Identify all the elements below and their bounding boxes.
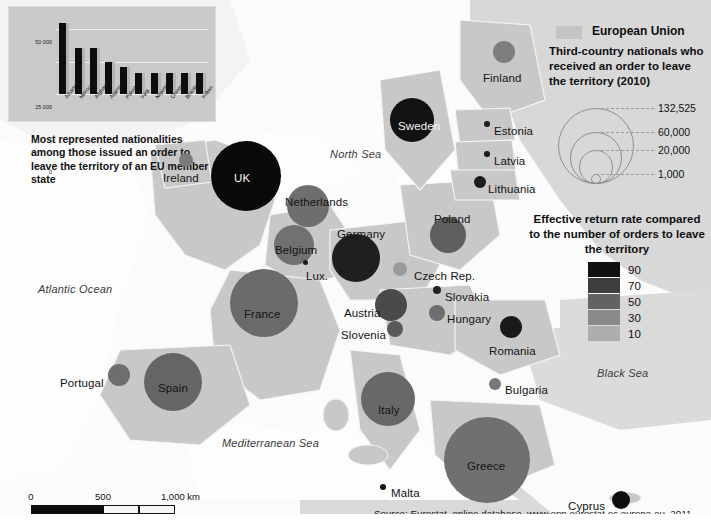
country-bubble xyxy=(380,484,386,490)
country-label: Estonia xyxy=(494,125,533,137)
country-label: Germany xyxy=(337,228,385,240)
country-bubble xyxy=(489,378,501,390)
bubble-legend-leader xyxy=(596,150,654,151)
rate-legend-title: Effective return rate compared to the nu… xyxy=(528,212,706,258)
country-label: France xyxy=(244,308,280,320)
country-label: Italy xyxy=(378,404,400,416)
rate-legend-swatch xyxy=(588,310,620,325)
scale-bar-tick: 1,000 km xyxy=(161,491,200,502)
bubble-legend-circle xyxy=(591,174,601,184)
sea-label: Mediterranean Sea xyxy=(222,437,319,449)
country-bubble xyxy=(433,286,441,294)
sea-label: North Sea xyxy=(330,148,381,160)
bubble-legend-title: Third-country nationals who received an … xyxy=(549,44,705,89)
country-label: Spain xyxy=(158,382,188,394)
bubble-legend-value: 132,525 xyxy=(658,102,696,114)
rate-legend-swatch xyxy=(588,278,620,293)
scale-bar xyxy=(31,505,175,514)
country-label: Latvia xyxy=(494,155,525,167)
country-label: Bulgaria xyxy=(505,384,548,396)
country-label: Lux. xyxy=(306,270,328,282)
footer-band xyxy=(0,514,711,532)
rate-legend-label: 50 xyxy=(628,296,641,308)
country-label: Slovenia xyxy=(341,329,386,341)
country-bubble xyxy=(361,372,415,426)
country-label: Czech Rep. xyxy=(414,270,475,282)
eu-legend-label: European Union xyxy=(592,24,685,38)
inset-bar-chart: 025 00050 000 Most represented nationali… xyxy=(8,6,216,122)
country-bubble xyxy=(332,234,380,282)
country-label: Hungary xyxy=(447,313,491,325)
rate-legend-label: 10 xyxy=(628,328,641,340)
rate-legend-swatch xyxy=(588,326,620,341)
country-bubble xyxy=(429,305,445,321)
bubble-size-legend: 132,52560,00020,0001,000 xyxy=(556,100,706,200)
bubble-legend-leader xyxy=(596,174,654,175)
country-bubble xyxy=(303,260,308,265)
sea-label: Black Sea xyxy=(597,367,648,379)
rate-legend-label: 30 xyxy=(628,312,641,324)
bubble-legend-value: 1,000 xyxy=(658,168,684,180)
sea-label: Atlantic Ocean xyxy=(38,283,112,295)
country-label: Greece xyxy=(467,460,505,472)
country-label: Netherlands xyxy=(285,196,348,208)
rate-legend-label: 90 xyxy=(628,264,641,276)
country-bubble xyxy=(474,176,486,188)
infographic-map: 025 00050 000 Most represented nationali… xyxy=(0,0,711,532)
country-label: Slovakia xyxy=(445,291,489,303)
country-bubble xyxy=(393,262,407,276)
country-label: Belgium xyxy=(275,244,317,256)
country-label: Portugal xyxy=(60,377,104,389)
chart-y-tick: 25 000 xyxy=(35,104,52,110)
country-bubble xyxy=(179,153,193,167)
scale-bar-tick: 0 xyxy=(28,491,33,502)
country-label: Romania xyxy=(489,345,536,357)
chart-bar xyxy=(59,23,66,95)
country-label: Sweden xyxy=(398,120,440,132)
country-label: Malta xyxy=(391,487,420,499)
country-label: Lithuania xyxy=(488,183,536,195)
country-label: Poland xyxy=(434,213,470,225)
rate-legend-label: 70 xyxy=(628,280,641,292)
scale-bar-tick: 500 xyxy=(95,491,111,502)
chart-gridline: 50 000 xyxy=(56,29,208,30)
rate-legend-swatch xyxy=(588,294,620,309)
country-label: Austria xyxy=(344,307,381,319)
bubble-legend-value: 20,000 xyxy=(658,144,690,156)
country-label: Ireland xyxy=(163,172,199,184)
country-bubble xyxy=(484,151,490,157)
country-bubble xyxy=(387,321,403,337)
country-bubble xyxy=(493,41,515,63)
chart-y-tick: 50 000 xyxy=(35,39,52,45)
country-bubble xyxy=(500,316,522,338)
eu-color-swatch xyxy=(556,26,582,39)
country-bubble xyxy=(484,121,490,127)
country-bubble xyxy=(108,364,130,386)
bubble-legend-leader xyxy=(596,108,654,109)
country-label: UK xyxy=(234,172,250,184)
bubble-legend-value: 60,000 xyxy=(658,126,690,138)
bubble-legend-leader xyxy=(596,132,654,133)
country-bubble xyxy=(230,269,298,337)
country-label: Finland xyxy=(483,72,521,84)
country-bubble xyxy=(612,491,630,509)
rate-legend-swatch xyxy=(588,262,620,277)
